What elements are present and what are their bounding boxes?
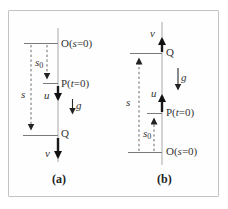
- s-symbol: s: [21, 88, 25, 100]
- g-symbol: g: [181, 71, 187, 83]
- panel-a-displacement-label: s: [21, 88, 25, 100]
- s-symbol: s: [126, 96, 130, 108]
- g-symbol: g: [76, 99, 82, 111]
- caption-a-text: (a): [52, 172, 66, 186]
- offset-sub: 0: [39, 61, 43, 70]
- panel-a-final-velocity-label: v: [45, 147, 50, 159]
- panel-a-caption: (a): [52, 173, 66, 186]
- panel-b-origin-label: O(s=0): [166, 145, 197, 157]
- v-symbol: v: [45, 147, 50, 159]
- panel-a-gravity-label: g: [76, 99, 82, 111]
- origin-label-pre: O(: [166, 145, 178, 157]
- origin-label-pre: O(: [61, 37, 73, 49]
- offset-sub: 0: [147, 132, 151, 141]
- panel-a-end-label: Q: [61, 127, 69, 139]
- panel-a-initial-velocity-label: u: [44, 89, 50, 101]
- q-symbol: Q: [61, 127, 69, 139]
- panel-a-origin-label: O(s=0): [61, 37, 92, 49]
- panel-b-final-velocity-label: v: [150, 27, 155, 39]
- panel-a-offset-label: s0: [35, 56, 43, 72]
- start-label-pre: P(: [61, 77, 71, 89]
- u-symbol: u: [44, 89, 50, 101]
- u-symbol: u: [151, 87, 157, 99]
- start-label-post: =0): [74, 77, 89, 89]
- panel-b-gravity-label: g: [181, 71, 187, 83]
- diagram-canvas: [0, 0, 228, 209]
- q-symbol: Q: [166, 46, 174, 58]
- start-label-post: =0): [179, 106, 194, 118]
- v-symbol: v: [150, 27, 155, 39]
- caption-b-text: (b): [157, 172, 172, 186]
- panel-b-offset-label: s0: [143, 127, 151, 143]
- panel-b-initial-velocity-label: u: [151, 87, 157, 99]
- panel-a-start-label: P(t=0): [61, 77, 89, 89]
- panel-b-caption: (b): [157, 173, 172, 186]
- physics-motion-diagram: O(s=0) s0 P(t=0) u g s Q v (a) v Q g u s…: [0, 0, 228, 209]
- origin-label-post: =0): [77, 37, 92, 49]
- panel-b-displacement-label: s: [126, 96, 130, 108]
- start-label-pre: P(: [166, 106, 176, 118]
- panel-b-end-label: Q: [166, 46, 174, 58]
- origin-label-post: =0): [182, 145, 197, 157]
- panel-b-start-label: P(t=0): [166, 106, 194, 118]
